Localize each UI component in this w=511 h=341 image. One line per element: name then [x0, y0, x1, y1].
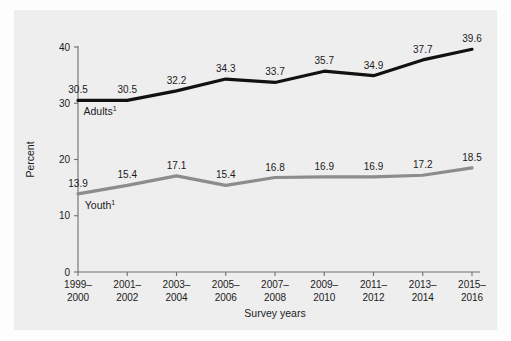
point-label-adults-6: 34.9	[364, 60, 384, 71]
x-tick-label: 1999–2000	[64, 279, 92, 303]
point-label-adults-4: 33.7	[265, 66, 285, 77]
point-label-adults-0: 30.5	[68, 84, 88, 95]
x-tick-label: 2005–2006	[212, 279, 240, 303]
point-label-adults-3: 34.3	[216, 63, 236, 74]
x-axis-tick-labels: 1999–20002001–20022003–20042005–20062007…	[64, 279, 486, 303]
y-tick-label: 0	[64, 267, 70, 278]
x-tick-label: 2009–2010	[310, 279, 338, 303]
x-tick-label: 2001–2002	[113, 279, 141, 303]
y-tick-label: 10	[59, 210, 71, 221]
point-label-youth-1: 15.4	[118, 169, 138, 180]
chart-figure: 010203040 1999–20002001–20022003–2004200…	[0, 0, 511, 341]
y-axis-title: Percent	[24, 141, 36, 177]
data-point-labels: 30.530.532.234.333.735.734.937.739.613.9…	[68, 33, 482, 189]
y-tick-label: 20	[59, 154, 71, 165]
x-tick-label: 2007–2008	[261, 279, 289, 303]
point-label-youth-5: 16.9	[315, 161, 335, 172]
x-axis-title: Survey years	[244, 307, 305, 319]
y-axis-tick-labels: 010203040	[59, 42, 71, 278]
point-label-adults-8: 39.6	[462, 33, 482, 44]
series-name-youth: Youth1	[85, 199, 115, 211]
point-label-youth-8: 18.5	[462, 152, 482, 163]
x-axis-ticks	[78, 272, 472, 276]
x-tick-label: 2011–2012	[360, 279, 388, 303]
point-label-adults-7: 37.7	[413, 44, 433, 55]
y-axis-ticks	[74, 47, 78, 272]
y-tick-label: 40	[59, 42, 71, 53]
point-label-adults-5: 35.7	[315, 55, 335, 66]
point-label-youth-7: 17.2	[413, 159, 433, 170]
point-label-adults-2: 32.2	[167, 75, 187, 86]
x-tick-label: 2003–2004	[163, 279, 191, 303]
line-chart-canvas: 010203040 1999–20002001–20022003–2004200…	[0, 0, 511, 341]
series-name-labels: Adults1Youth1	[83, 105, 116, 210]
point-label-youth-0: 13.9	[68, 178, 88, 189]
point-label-youth-3: 15.4	[216, 169, 236, 180]
y-tick-label: 30	[59, 98, 71, 109]
x-tick-label: 2013–2014	[409, 279, 437, 303]
point-label-youth-4: 16.8	[265, 162, 285, 173]
point-label-adults-1: 30.5	[118, 84, 138, 95]
point-label-youth-2: 17.1	[167, 160, 187, 171]
x-tick-label: 2015–2016	[458, 279, 486, 303]
point-label-youth-6: 16.9	[364, 161, 384, 172]
series-name-adults: Adults1	[83, 105, 116, 117]
